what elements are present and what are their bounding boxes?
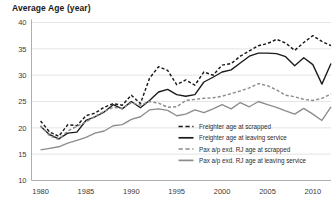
plot-area: 40353025201510 1980198519901995200020052… bbox=[0, 0, 336, 210]
legend-label: Pax a/p exd. RJ age at scrapped bbox=[199, 146, 291, 154]
y-axis-tick-labels: 40353025201510 bbox=[18, 18, 26, 185]
y-tick-label: 15 bbox=[18, 150, 26, 159]
x-tick-label: 1980 bbox=[32, 187, 49, 196]
x-tick-label: 2010 bbox=[305, 187, 322, 196]
chart-legend: Freighter age at scrappedFreighter age a… bbox=[179, 123, 307, 165]
x-tick-label: 2000 bbox=[214, 187, 231, 196]
series-line bbox=[41, 102, 331, 150]
x-tick-label: 2005 bbox=[259, 187, 276, 196]
legend-label: Freighter age at scrapped bbox=[199, 123, 272, 131]
average-age-line-chart: Average Age (year) 40353025201510 198019… bbox=[0, 0, 336, 210]
x-tick-label: 1990 bbox=[123, 187, 140, 196]
x-axis-tick-labels: 1980198519901995200020052010 bbox=[32, 187, 321, 196]
y-tick-label: 20 bbox=[18, 124, 26, 133]
y-tick-label: 30 bbox=[18, 71, 26, 80]
x-tick-label: 1985 bbox=[78, 187, 95, 196]
y-tick-label: 10 bbox=[18, 176, 26, 185]
y-tick-label: 35 bbox=[18, 45, 26, 54]
x-tick-label: 1995 bbox=[168, 187, 185, 196]
legend-label: Pax a/p exd. RJ age at leaving service bbox=[199, 157, 307, 165]
data-series bbox=[41, 36, 331, 150]
series-line bbox=[41, 36, 331, 137]
legend-label: Freighter age at leaving service bbox=[199, 134, 287, 142]
y-tick-label: 40 bbox=[18, 18, 26, 27]
y-tick-label: 25 bbox=[18, 97, 26, 106]
